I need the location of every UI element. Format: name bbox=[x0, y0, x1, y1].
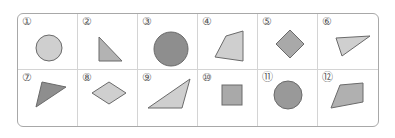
cell-4: ④ bbox=[198, 14, 258, 70]
cell-9: ⑨ bbox=[138, 70, 198, 126]
circle-icon bbox=[258, 70, 318, 126]
rotated-square-icon bbox=[258, 14, 318, 70]
cell-10: ⑩ bbox=[198, 70, 258, 126]
square-icon bbox=[198, 70, 258, 126]
cell-12: ⑫ bbox=[318, 70, 378, 126]
cell-11: ⑪ bbox=[258, 70, 318, 126]
quadrilateral-icon bbox=[318, 70, 378, 126]
cell-5: ⑤ bbox=[258, 14, 318, 70]
triangle-icon bbox=[318, 14, 378, 70]
large-circle-icon bbox=[138, 14, 198, 70]
cell-3: ③ bbox=[138, 14, 198, 70]
circle-icon bbox=[18, 14, 78, 70]
quadrilateral-icon bbox=[198, 14, 258, 70]
triangle-icon bbox=[18, 70, 78, 126]
cell-2: ② bbox=[78, 14, 138, 70]
obtuse-triangle-icon bbox=[138, 70, 198, 126]
cell-6: ⑥ bbox=[318, 14, 378, 70]
shapes-table: ① ② ③ ④ ⑤ ⑥ ⑦ ⑧ bbox=[17, 13, 379, 127]
cell-1: ① bbox=[18, 14, 78, 70]
right-triangle-icon bbox=[78, 14, 138, 70]
rhombus-icon bbox=[78, 70, 138, 126]
cell-8: ⑧ bbox=[78, 70, 138, 126]
cell-7: ⑦ bbox=[18, 70, 78, 126]
